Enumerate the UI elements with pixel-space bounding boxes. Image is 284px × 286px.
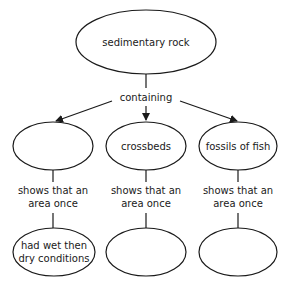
result-ellipse-left (13, 228, 95, 276)
arrow-left (56, 101, 112, 121)
branch-right: fossils of fish shows that an area once (199, 122, 277, 276)
link-left-line1: shows that an (18, 185, 88, 196)
link-center-line2: area once (121, 198, 171, 209)
link-right-line2: area once (213, 198, 263, 209)
branch-left: shows that an area once had wet then dry… (13, 122, 95, 276)
link-right-line1: shows that an (203, 185, 273, 196)
link-left-line2: area once (28, 198, 78, 209)
root-label: sedimentary rock (102, 37, 189, 48)
node-label-center: crossbeds (121, 141, 171, 152)
arrow-right (180, 101, 237, 121)
branch-center: crossbeds shows that an area once (106, 122, 186, 276)
link-containing: containing (120, 92, 173, 103)
node-label-right: fossils of fish (206, 141, 271, 152)
result-ellipse-center (106, 228, 186, 276)
link-center-line1: shows that an (111, 185, 181, 196)
result-ellipse-right (199, 228, 277, 276)
concept-map: sedimentary rock containing shows that a… (0, 0, 284, 286)
result-left-line2: dry conditions (18, 253, 89, 264)
node-ellipse-left (13, 122, 93, 170)
result-left-line1: had wet then (21, 240, 87, 251)
root-node: sedimentary rock (76, 10, 216, 74)
